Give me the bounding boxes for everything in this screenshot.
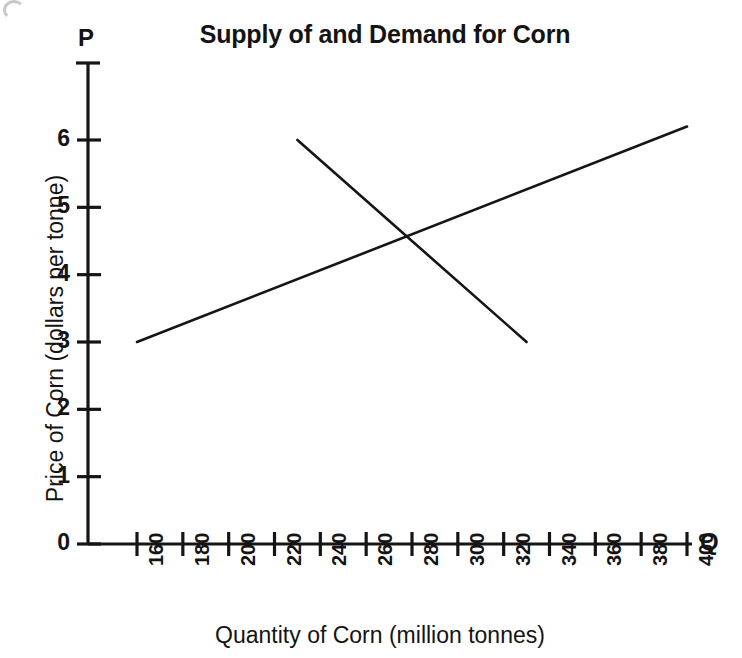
series-line-demand — [297, 140, 526, 342]
y-tick-label: 6 — [40, 125, 70, 152]
x-tick-label: 360 — [603, 533, 626, 566]
x-tick-label: 180 — [191, 533, 214, 566]
x-tick-label: 320 — [512, 533, 535, 566]
x-tick-label: 300 — [466, 533, 489, 566]
series-line-supply — [137, 127, 687, 342]
plot-area — [0, 0, 742, 658]
y-tick-label: 2 — [40, 394, 70, 421]
y-tick-label: 4 — [40, 260, 70, 287]
axes-group — [76, 62, 692, 544]
x-tick-label: 240 — [328, 533, 351, 566]
y-tick-label: 5 — [40, 192, 70, 219]
x-tick-label: 280 — [420, 533, 443, 566]
x-tick-label: 400 — [695, 533, 718, 566]
series-lines — [137, 127, 687, 342]
y-tick-label: 1 — [40, 462, 70, 489]
x-tick-label: 340 — [558, 533, 581, 566]
x-tick-label: 220 — [283, 533, 306, 566]
supply-demand-chart: Supply of and Demand for Corn P Q Price … — [0, 0, 742, 658]
x-tick-label: 380 — [649, 533, 672, 566]
x-tick-label: 160 — [145, 533, 168, 566]
x-tick-label: 200 — [237, 533, 260, 566]
y-tick-label: 0 — [40, 529, 70, 556]
x-tick-label: 260 — [374, 533, 397, 566]
y-tick-label: 3 — [40, 327, 70, 354]
